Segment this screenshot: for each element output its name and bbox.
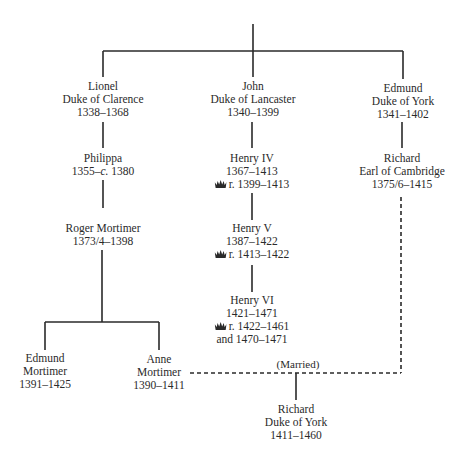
reign: r. 1399–1413 bbox=[215, 178, 290, 191]
crown-icon bbox=[215, 322, 227, 330]
node-edmund-mortimer: Edmund Mortimer 1391–1425 bbox=[19, 352, 71, 391]
title: Duke of Clarence bbox=[62, 93, 143, 106]
title: Duke of Lancaster bbox=[211, 93, 296, 106]
dates: 1340–1399 bbox=[211, 106, 296, 119]
node-henry-iv: Henry IV 1367–1413 r. 1399–1413 bbox=[215, 152, 290, 191]
title: Earl of Cambridge bbox=[359, 165, 445, 178]
dates: 1341–1402 bbox=[372, 108, 434, 121]
name: Philippa bbox=[72, 152, 135, 165]
name: Richard bbox=[359, 152, 445, 165]
dates: 1391–1425 bbox=[19, 378, 71, 391]
married-label: (Married) bbox=[277, 358, 320, 370]
reign: r. 1422–1461 bbox=[215, 320, 290, 333]
name: Lionel bbox=[62, 80, 143, 93]
node-richard-cambridge: Richard Earl of Cambridge 1375/6–1415 bbox=[359, 152, 445, 191]
node-henry-v: Henry V 1387–1422 r. 1413–1422 bbox=[215, 222, 290, 261]
name: Anne bbox=[133, 353, 184, 366]
node-richard-york: Richard Duke of York 1411–1460 bbox=[265, 403, 327, 442]
dates: 1390–1411 bbox=[133, 379, 184, 392]
name: John bbox=[211, 80, 296, 93]
name: Henry V bbox=[215, 222, 290, 235]
name: Roger Mortimer bbox=[65, 222, 140, 235]
node-henry-vi: Henry VI 1421–1471 r. 1422–1461 and 1470… bbox=[215, 294, 290, 346]
node-john: John Duke of Lancaster 1340–1399 bbox=[211, 80, 296, 119]
node-philippa: Philippa 1355–c. 1380 bbox=[72, 152, 135, 178]
name: Henry IV bbox=[215, 152, 290, 165]
surname: Mortimer bbox=[19, 365, 71, 378]
crown-icon bbox=[215, 250, 227, 258]
crown-icon bbox=[215, 180, 227, 188]
node-anne-mortimer: Anne Mortimer 1390–1411 bbox=[133, 353, 184, 392]
dates: 1373/4–1398 bbox=[65, 235, 140, 248]
dates: 1421–1471 bbox=[215, 307, 290, 320]
node-edmund-york: Edmund Duke of York 1341–1402 bbox=[372, 82, 434, 121]
title: Duke of York bbox=[265, 416, 327, 429]
title: Duke of York bbox=[372, 95, 434, 108]
dates: 1375/6–1415 bbox=[359, 178, 445, 191]
dates: 1411–1460 bbox=[265, 429, 327, 442]
reign-extra: and 1470–1471 bbox=[215, 333, 290, 346]
name: Richard bbox=[265, 403, 327, 416]
name: Edmund bbox=[372, 82, 434, 95]
name: Edmund bbox=[19, 352, 71, 365]
name: Henry VI bbox=[215, 294, 290, 307]
surname: Mortimer bbox=[133, 366, 184, 379]
dates: 1338–1368 bbox=[62, 106, 143, 119]
reign: r. 1413–1422 bbox=[215, 248, 290, 261]
node-roger-mortimer: Roger Mortimer 1373/4–1398 bbox=[65, 222, 140, 248]
node-lionel: Lionel Duke of Clarence 1338–1368 bbox=[62, 80, 143, 119]
dates: 1387–1422 bbox=[215, 235, 290, 248]
dates: 1355–c. 1380 bbox=[72, 165, 135, 178]
dates: 1367–1413 bbox=[215, 165, 290, 178]
